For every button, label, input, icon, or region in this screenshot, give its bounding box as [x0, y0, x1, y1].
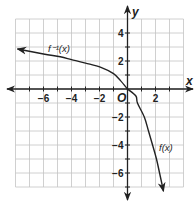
- x-tick-label: −6: [38, 93, 50, 104]
- y-tick-label: −6: [112, 168, 124, 179]
- x-tick-label: 2: [153, 93, 159, 104]
- f-inverse-curve: [17, 49, 127, 89]
- x-axis-label: x: [185, 74, 194, 88]
- y-tick-label: −4: [112, 140, 124, 151]
- y-tick-label: 4: [118, 28, 124, 39]
- graph-figure: −6−4−2242−2−4−6 x y O f⁻¹(x) f(x): [0, 0, 196, 208]
- f-curve: [128, 89, 164, 191]
- y-tick-label: −2: [112, 112, 124, 123]
- x-tick-label: −2: [94, 93, 106, 104]
- origin-label: O: [117, 91, 127, 105]
- f-label: f(x): [159, 142, 173, 153]
- coordinate-plane: −6−4−2242−2−4−6 x y O f⁻¹(x) f(x): [0, 0, 196, 208]
- x-tick-label: −4: [66, 93, 78, 104]
- y-axis-label: y: [131, 5, 140, 19]
- f-inverse-label: f⁻¹(x): [48, 43, 70, 54]
- y-tick-label: 2: [118, 56, 124, 67]
